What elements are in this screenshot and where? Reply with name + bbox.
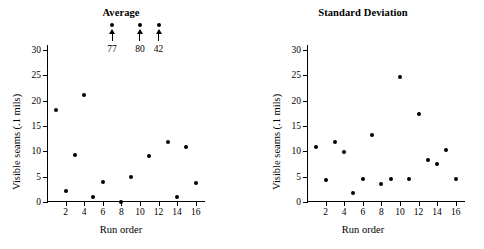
y-tick-label-0-5: 25 <box>32 70 42 80</box>
y-tick-1-2 <box>303 151 308 152</box>
data-point <box>361 177 365 181</box>
y-tick-0-0 <box>43 202 48 203</box>
x-tick-label-0-0: 2 <box>63 207 68 217</box>
data-point <box>398 75 402 79</box>
plot-area-standard-deviation: 051015202530246810121416 <box>307 45 465 202</box>
x-tick-label-1-4: 10 <box>395 207 405 217</box>
data-point <box>175 195 179 199</box>
offscale-data-point <box>138 23 142 27</box>
x-tick-label-0-3: 8 <box>119 207 124 217</box>
x-tick-label-1-6: 14 <box>432 207 442 217</box>
y-tick-1-6 <box>303 50 308 51</box>
x-tick-0-4 <box>140 201 141 206</box>
data-point <box>91 195 95 199</box>
x-tick-label-1-0: 2 <box>323 207 328 217</box>
x-tick-label-1-5: 12 <box>414 207 424 217</box>
x-tick-1-5 <box>419 201 420 206</box>
data-point <box>370 133 374 137</box>
x-axis-line-average <box>47 201 205 202</box>
offscale-value-label: 42 <box>154 44 164 55</box>
panel-average: Average 051015202530246810121416 Visible… <box>0 0 242 249</box>
y-tick-label-1-1: 5 <box>296 172 301 182</box>
data-point <box>54 108 58 112</box>
data-point <box>194 181 198 185</box>
y-tick-label-0-4: 20 <box>32 96 42 106</box>
offscale-value-label: 80 <box>135 44 145 55</box>
x-tick-label-1-3: 8 <box>379 207 384 217</box>
up-arrow-icon <box>139 30 140 41</box>
x-tick-label-0-2: 6 <box>100 207 105 217</box>
data-point <box>342 150 346 154</box>
data-point <box>147 154 151 158</box>
two-panel-scatter-figure: Average 051015202530246810121416 Visible… <box>0 0 484 249</box>
up-arrow-icon <box>158 30 159 41</box>
y-tick-1-0 <box>303 202 308 203</box>
y-tick-0-6 <box>43 50 48 51</box>
x-tick-0-6 <box>177 201 178 206</box>
x-tick-label-0-4: 10 <box>135 207 145 217</box>
x-tick-0-2 <box>103 201 104 206</box>
data-point <box>417 112 421 116</box>
offscale-data-point <box>110 23 114 27</box>
y-tick-label-0-1: 5 <box>36 172 41 182</box>
x-tick-label-1-7: 16 <box>451 207 461 217</box>
x-tick-1-4 <box>400 201 401 206</box>
x-tick-1-3 <box>381 201 382 206</box>
y-tick-1-1 <box>303 177 308 178</box>
x-tick-label-0-1: 4 <box>82 207 87 217</box>
data-point <box>435 162 439 166</box>
data-point <box>444 148 448 152</box>
data-point <box>184 145 188 149</box>
data-point <box>64 189 68 193</box>
y-tick-label-1-4: 20 <box>292 96 302 106</box>
y-tick-0-1 <box>43 177 48 178</box>
x-tick-label-0-5: 12 <box>154 207 164 217</box>
y-axis-title-standard-deviation: Visible seams (.1 mils) <box>271 94 282 190</box>
offscale-value-label: 77 <box>107 44 117 55</box>
y-tick-label-1-6: 30 <box>292 45 302 55</box>
y-tick-label-0-0: 0 <box>36 197 41 207</box>
x-tick-0-1 <box>84 201 85 206</box>
y-tick-label-0-2: 10 <box>32 146 42 156</box>
y-tick-0-3 <box>43 126 48 127</box>
x-tick-0-7 <box>196 201 197 206</box>
data-point <box>166 140 170 144</box>
y-axis-title-average: Visible seams (.1 mils) <box>11 94 22 190</box>
x-tick-0-5 <box>159 201 160 206</box>
y-axis-line-average <box>47 45 48 202</box>
x-axis-line-standard-deviation <box>307 201 465 202</box>
x-tick-1-2 <box>363 201 364 206</box>
data-point <box>426 158 430 162</box>
up-arrow-icon <box>112 30 113 41</box>
x-tick-1-1 <box>344 201 345 206</box>
y-tick-1-4 <box>303 101 308 102</box>
x-tick-label-1-2: 6 <box>360 207 365 217</box>
y-tick-label-1-2: 10 <box>292 146 302 156</box>
y-axis-line-standard-deviation <box>307 45 308 202</box>
data-point <box>379 182 383 186</box>
x-tick-1-7 <box>456 201 457 206</box>
y-tick-1-5 <box>303 75 308 76</box>
y-tick-1-3 <box>303 126 308 127</box>
x-tick-1-6 <box>437 201 438 206</box>
x-tick-label-1-1: 4 <box>342 207 347 217</box>
data-point <box>407 177 411 181</box>
offscale-data-point <box>157 23 161 27</box>
x-axis-title-average: Run order <box>0 224 242 236</box>
data-point <box>82 93 86 97</box>
panel-standard-deviation: Standard Deviation 051015202530246810121… <box>242 0 484 249</box>
chart-title-average: Average <box>0 6 242 19</box>
x-axis-title-standard-deviation: Run order <box>242 224 484 236</box>
chart-title-standard-deviation: Standard Deviation <box>242 6 484 19</box>
x-tick-0-0 <box>66 201 67 206</box>
data-point <box>454 177 458 181</box>
x-tick-1-0 <box>326 201 327 206</box>
y-tick-label-1-5: 25 <box>292 70 302 80</box>
data-point <box>73 153 77 157</box>
y-tick-label-0-6: 30 <box>32 45 42 55</box>
data-point <box>314 145 318 149</box>
y-tick-0-5 <box>43 75 48 76</box>
data-point <box>119 200 123 204</box>
y-tick-label-1-0: 0 <box>296 197 301 207</box>
y-tick-label-1-3: 15 <box>292 121 302 131</box>
